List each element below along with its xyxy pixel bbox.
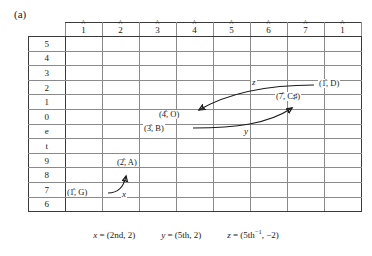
grid-cell[interactable] <box>102 109 139 124</box>
arrow-label-x: x <box>121 190 127 199</box>
column-header-1: ^1 <box>65 23 102 37</box>
grid-cell[interactable] <box>139 168 176 183</box>
grid-cell[interactable] <box>176 197 213 212</box>
grid-cell[interactable] <box>213 66 250 81</box>
grid-cell[interactable] <box>176 51 213 66</box>
grid-cell[interactable] <box>213 80 250 95</box>
node-label-3-B: (3̂, B) <box>143 124 165 133</box>
caret-accent-icon: ^ <box>267 20 271 28</box>
grid-cell[interactable] <box>324 182 361 197</box>
node-label-1-G: (1̂, G) <box>66 188 88 197</box>
grid-cell[interactable] <box>65 153 102 168</box>
grid-cell[interactable] <box>139 37 176 52</box>
grid-cell[interactable] <box>250 109 287 124</box>
grid-cell[interactable] <box>250 51 287 66</box>
grid-cell[interactable] <box>250 139 287 154</box>
grid-cell[interactable] <box>213 153 250 168</box>
grid-cell[interactable] <box>65 109 102 124</box>
grid-cell[interactable] <box>102 51 139 66</box>
grid-cell[interactable] <box>287 168 324 183</box>
grid-cell[interactable] <box>102 37 139 52</box>
grid-cell[interactable] <box>324 95 361 110</box>
grid-cell[interactable] <box>65 139 102 154</box>
grid-row: 6 <box>29 197 362 212</box>
grid-cell[interactable] <box>102 95 139 110</box>
figure-panel: (a) ^1^2^3^4^5^6^7^1543210et9876 (1̂, D)… <box>0 0 372 256</box>
grid-header-row: ^1^2^3^4^5^6^7^1 <box>29 23 362 37</box>
grid-cell[interactable] <box>139 182 176 197</box>
grid-row: t <box>29 139 362 154</box>
grid-cell[interactable] <box>213 51 250 66</box>
grid-cell[interactable] <box>102 197 139 212</box>
grid-cell[interactable] <box>287 153 324 168</box>
grid-cell[interactable] <box>250 153 287 168</box>
row-header-7: 7 <box>29 182 66 197</box>
grid-cell[interactable] <box>139 95 176 110</box>
grid-cell[interactable] <box>324 109 361 124</box>
grid-cell[interactable] <box>65 168 102 183</box>
caption-x: x = (2nd, 2) <box>93 230 135 240</box>
grid-cell[interactable] <box>287 182 324 197</box>
grid-cell[interactable] <box>324 168 361 183</box>
grid-cell[interactable] <box>250 197 287 212</box>
grid-cell[interactable] <box>324 153 361 168</box>
grid-cell[interactable] <box>213 168 250 183</box>
grid-cell[interactable] <box>324 139 361 154</box>
grid-cell[interactable] <box>139 51 176 66</box>
grid-cell[interactable] <box>176 37 213 52</box>
grid-cell[interactable] <box>139 80 176 95</box>
node-label-1-D: (1̂, D) <box>318 79 340 88</box>
grid-cell[interactable] <box>250 37 287 52</box>
grid-cell[interactable] <box>139 153 176 168</box>
grid-cell[interactable] <box>176 168 213 183</box>
grid-cell[interactable] <box>65 66 102 81</box>
grid-cell[interactable] <box>102 139 139 154</box>
grid-cell[interactable] <box>213 182 250 197</box>
grid-cell[interactable] <box>176 124 213 139</box>
grid-cell[interactable] <box>65 124 102 139</box>
grid-cell[interactable] <box>287 197 324 212</box>
grid-cell[interactable] <box>287 109 324 124</box>
grid-cell[interactable] <box>139 197 176 212</box>
grid-cell[interactable] <box>324 124 361 139</box>
grid-cell[interactable] <box>176 109 213 124</box>
grid-cell[interactable] <box>176 182 213 197</box>
grid-cell[interactable] <box>176 66 213 81</box>
grid-cell[interactable] <box>287 37 324 52</box>
grid-cell[interactable] <box>250 168 287 183</box>
grid-cell[interactable] <box>324 37 361 52</box>
grid-cell[interactable] <box>102 80 139 95</box>
grid-cell[interactable] <box>176 80 213 95</box>
grid-cell[interactable] <box>213 139 250 154</box>
grid-cell[interactable] <box>102 124 139 139</box>
grid-cell[interactable] <box>324 197 361 212</box>
grid-cell[interactable] <box>287 139 324 154</box>
grid-cell[interactable] <box>65 197 102 212</box>
grid-cell[interactable] <box>287 124 324 139</box>
grid-cell[interactable] <box>139 139 176 154</box>
caret-accent-icon: ^ <box>230 20 234 28</box>
grid-cell[interactable] <box>213 109 250 124</box>
grid-cell[interactable] <box>65 80 102 95</box>
caption-var-x: x <box>93 230 97 240</box>
grid-cell[interactable] <box>102 168 139 183</box>
grid-cell[interactable] <box>176 139 213 154</box>
grid-cell[interactable] <box>213 37 250 52</box>
grid-cell[interactable] <box>65 95 102 110</box>
grid-cell[interactable] <box>65 51 102 66</box>
row-header-3: 3 <box>29 66 66 81</box>
grid-cell[interactable] <box>324 51 361 66</box>
grid-cell[interactable] <box>213 197 250 212</box>
grid-cell[interactable] <box>250 124 287 139</box>
grid-cell[interactable] <box>139 66 176 81</box>
arrow-label-z: z <box>251 78 257 87</box>
grid-cell[interactable] <box>65 37 102 52</box>
grid-cell[interactable] <box>250 182 287 197</box>
grid-cell[interactable] <box>176 95 213 110</box>
grid-cell[interactable] <box>213 95 250 110</box>
row-header-2: 2 <box>29 80 66 95</box>
grid-cell[interactable] <box>287 51 324 66</box>
grid-cell[interactable] <box>102 66 139 81</box>
column-header-5: ^5 <box>213 23 250 37</box>
grid-cell[interactable] <box>176 153 213 168</box>
